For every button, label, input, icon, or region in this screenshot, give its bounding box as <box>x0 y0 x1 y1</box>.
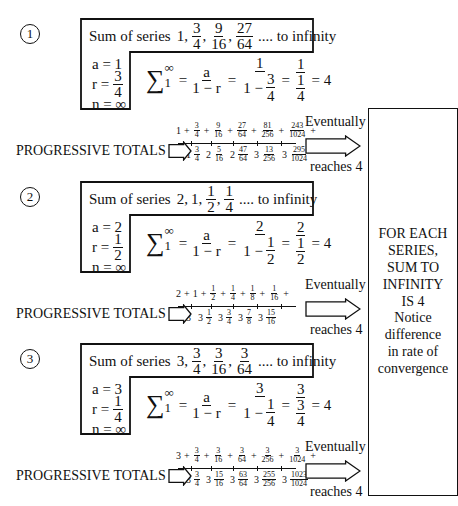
fraction: 34 <box>192 21 202 52</box>
denominator: 1024 <box>288 456 306 464</box>
fraction: 364 <box>236 346 253 377</box>
substituted-fraction: 31 −14 <box>242 381 277 429</box>
fraction: 2764 <box>237 122 247 139</box>
numerator: 3 <box>266 72 276 88</box>
denominator: 4 <box>194 155 200 163</box>
series-title: Sum of series2,1,12,14.... to infinity <box>89 184 317 215</box>
result: = 4 <box>311 72 331 89</box>
fraction: 916 <box>210 21 227 52</box>
simplified-fraction: 334 <box>294 382 308 429</box>
series-term: 2, <box>177 191 188 208</box>
fraction: 81256 <box>261 122 275 139</box>
convergence-arrow-icon <box>305 298 361 320</box>
param-r-label: r = <box>92 239 109 256</box>
hollow-arrow-icon <box>168 304 192 324</box>
series-title-prefix: Sum of series <box>89 353 171 370</box>
fraction: 916 <box>213 122 223 139</box>
plus-operator: + <box>227 125 233 136</box>
denominator: 4 <box>296 89 306 104</box>
equals: = <box>228 72 236 89</box>
denominator: 16 <box>210 37 227 52</box>
numerator: 3 <box>113 69 123 85</box>
progressive-total: 31516 <box>258 309 277 326</box>
upper-limit: ∞ <box>165 61 174 74</box>
eventually-label: Eventually <box>305 439 366 455</box>
eventually-label: Eventually <box>305 277 366 293</box>
substituted-fraction: 11 −34 <box>242 56 277 104</box>
denominator: 14 <box>294 73 308 104</box>
separator: , <box>202 28 206 45</box>
denominator: 4 <box>194 456 200 464</box>
series-number-badge: 3 <box>20 349 40 369</box>
summary-line: SUM TO <box>387 260 439 277</box>
series-term: 1, <box>191 191 202 208</box>
fraction: 316 <box>213 447 223 464</box>
number-line <box>178 306 296 307</box>
fraction: 316 <box>210 346 227 377</box>
total-whole: 3 <box>206 474 211 485</box>
progressive-total: 31516 <box>206 471 225 488</box>
numerator: 3 <box>240 346 250 362</box>
denominator: 64 <box>237 131 247 139</box>
sigma-symbol: ∑ <box>146 230 165 256</box>
sigma-symbol: ∑ <box>146 392 165 418</box>
separator: , <box>217 191 221 208</box>
progressive-total: 334 <box>218 309 233 326</box>
separator: , <box>228 28 232 45</box>
numerator: 1 <box>113 232 123 248</box>
plus-operator: + <box>220 288 226 299</box>
denominator: 8 <box>250 294 256 302</box>
fraction: 3256 <box>261 447 275 464</box>
progressive-totals-label: PROGRESSIVE TOTALS <box>16 141 192 161</box>
fraction: 34 <box>266 72 276 104</box>
denominator: 64 <box>237 456 247 464</box>
equals: = <box>281 397 289 414</box>
hollow-arrow-icon <box>168 141 192 161</box>
numerator: 1 <box>255 56 265 72</box>
numerator: 1 <box>266 235 276 251</box>
progressive-total: 313256 <box>254 146 277 163</box>
sum-limits: ∞1 <box>165 71 174 89</box>
progressive-total: 312 <box>198 309 213 326</box>
fraction: 34 <box>226 309 232 326</box>
summary-line: convergence <box>378 361 448 378</box>
sum-limits: ∞1 <box>165 234 174 252</box>
denominator: 64 <box>236 362 253 377</box>
denominator: 4 <box>266 413 276 429</box>
progressive-totals-label: PROGRESSIVE TOTALS <box>16 304 192 324</box>
summary-line: FOR EACH <box>379 226 448 243</box>
denominator: 1024 <box>288 131 306 139</box>
numerator: 3 <box>192 21 202 37</box>
fraction: 4764 <box>238 146 248 163</box>
series-terms: 2+1+12+14+18+116+ <box>176 285 292 302</box>
result: = 4 <box>311 397 331 414</box>
eventually-label: Eventually <box>305 114 366 130</box>
fraction: a1 − r <box>191 390 221 421</box>
fraction: 12 <box>210 285 216 302</box>
series-title-prefix: Sum of series <box>89 28 171 45</box>
total-whole: 3 <box>282 474 287 485</box>
term: 3 <box>176 450 181 461</box>
numerator: 2 <box>296 220 306 236</box>
numerator: a <box>202 65 211 81</box>
substituted-fraction: 21 −12 <box>242 219 277 267</box>
den-prefix: 1 − <box>243 406 263 421</box>
fraction: 116 <box>269 285 279 302</box>
progressive-total: 24764 <box>230 146 249 163</box>
plus-operator: + <box>240 288 246 299</box>
progressive-totals-label: PROGRESSIVE TOTALS <box>16 466 192 486</box>
fraction: 31024 <box>288 447 306 464</box>
fraction: 14 <box>266 397 276 429</box>
total-whole: 3 <box>254 149 259 160</box>
denominator: 1 −34 <box>242 72 277 104</box>
equals: = <box>179 72 187 89</box>
denominator: 4 <box>266 88 276 104</box>
fraction: 364 <box>237 447 247 464</box>
denominator: 4 <box>230 294 236 302</box>
fraction: a1 − r <box>191 65 221 96</box>
fraction: 34 <box>192 346 202 377</box>
total-whole: 3 <box>258 312 263 323</box>
term: 1 <box>193 288 198 299</box>
denominator: 12 <box>294 236 308 267</box>
numerator: 9 <box>214 21 224 37</box>
